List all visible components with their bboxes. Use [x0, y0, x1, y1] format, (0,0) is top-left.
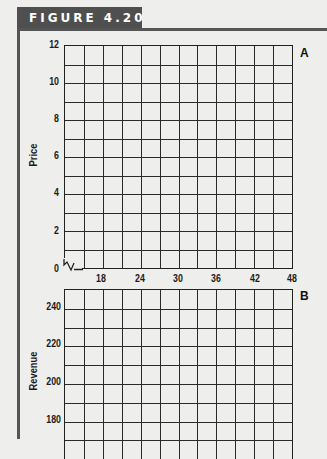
gridline-horizontal	[65, 65, 292, 66]
gridline-vertical	[216, 290, 217, 459]
chart-a-ytick: 2	[35, 224, 59, 236]
gridline-vertical	[84, 290, 85, 459]
chart-a-xtick: 30	[166, 272, 190, 284]
gridline-horizontal	[65, 120, 292, 121]
frame-top-rule	[17, 28, 327, 31]
chart-a-panel-label: A	[300, 46, 309, 60]
gridline-horizontal	[65, 139, 292, 140]
gridline-horizontal	[65, 384, 292, 385]
chart-a-ylabel: Price	[27, 130, 39, 181]
gridline-vertical	[235, 290, 236, 459]
gridline-vertical	[103, 290, 104, 459]
chart-a-xtick: 42	[243, 272, 267, 284]
gridline-vertical	[122, 290, 123, 459]
chart-a-ytick: 4	[35, 186, 59, 198]
chart-a-ytick: 0	[35, 262, 59, 274]
chart-b-ylabel: Revenue	[27, 346, 39, 397]
chart-a-xtick: 36	[204, 272, 228, 284]
gridline-horizontal	[65, 157, 292, 158]
chart-a-grid	[64, 45, 293, 269]
gridline-horizontal	[65, 328, 292, 329]
chart-b-ytick: 200	[37, 375, 61, 387]
gridline-vertical	[179, 290, 180, 459]
gridline-vertical	[141, 290, 142, 459]
gridline-horizontal	[65, 213, 292, 214]
gridline-horizontal	[65, 231, 292, 232]
gridline-horizontal	[65, 83, 292, 84]
gridline-horizontal	[65, 422, 292, 423]
chart-b-panel-label: B	[300, 289, 309, 303]
chart-b-ytick: 180	[37, 413, 61, 425]
chart-b-ytick: 220	[37, 337, 61, 349]
gridline-horizontal	[65, 309, 292, 310]
axis-break-icon	[63, 258, 83, 274]
chart-a-xtick: 48	[280, 272, 304, 284]
gridline-horizontal	[65, 365, 292, 366]
chart-b-ytick: 240	[37, 300, 61, 312]
gridline-horizontal	[65, 346, 292, 347]
chart-a-ytick: 8	[35, 112, 59, 124]
chart-a-xtick: 18	[89, 272, 113, 284]
gridline-vertical	[197, 290, 198, 459]
chart-a-ytick: 12	[35, 38, 59, 50]
gridline-horizontal	[65, 403, 292, 404]
figure-title-tab: FIGURE 4.20	[17, 7, 142, 30]
gridline-vertical	[273, 290, 274, 459]
chart-b-grid	[64, 289, 293, 459]
gridline-horizontal	[65, 250, 292, 251]
chart-a-ytick: 10	[35, 75, 59, 87]
frame-left-rule	[17, 28, 20, 439]
gridline-horizontal	[65, 194, 292, 195]
gridline-horizontal	[65, 440, 292, 441]
gridline-vertical	[254, 290, 255, 459]
gridline-horizontal	[65, 102, 292, 103]
gridline-vertical	[160, 290, 161, 459]
chart-a-xtick: 24	[128, 272, 152, 284]
gridline-horizontal	[65, 176, 292, 177]
